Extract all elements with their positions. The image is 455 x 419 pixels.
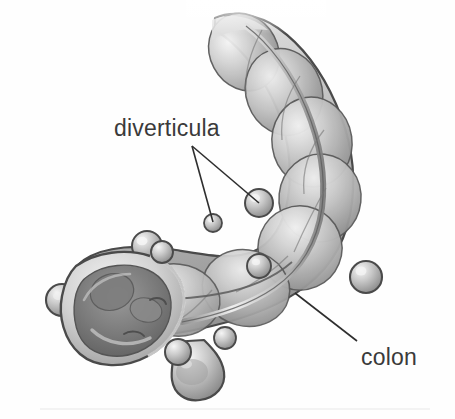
leader-diverticula-b	[192, 146, 259, 203]
diverticulum-cut-end-lower	[165, 339, 191, 365]
label-diverticula: diverticula	[114, 117, 220, 140]
leader-diverticula-a	[192, 146, 213, 222]
top-fade-mask	[186, 0, 326, 34]
diverticulum-underside	[214, 327, 236, 349]
illustration-page: diverticula colon	[0, 0, 455, 419]
diverticulum-left-of-upper	[204, 214, 222, 232]
label-colon: colon	[361, 346, 417, 369]
leader-colon	[295, 293, 357, 341]
diverticulum-cut-end-upper	[151, 241, 173, 263]
diverticulum-right-flank	[350, 261, 382, 293]
diverticulum-mid-body	[247, 254, 271, 278]
